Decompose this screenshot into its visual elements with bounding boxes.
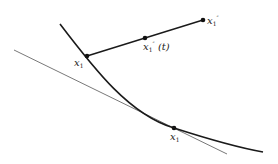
point-x1-dd-t xyxy=(143,36,148,41)
label-x1-hat-sub: 1 xyxy=(176,136,180,143)
optimization-diagram xyxy=(0,0,278,164)
label-x1-dd-t-arg: (t) xyxy=(158,41,170,52)
label-x1-double-prime-t: x1″ (t) xyxy=(143,41,170,53)
label-x1-dd-t-sub: 1 xyxy=(149,46,153,53)
label-x1-dd-sup: ″ xyxy=(216,14,218,21)
point-x1-dd xyxy=(201,18,206,23)
label-x1-sub: 1 xyxy=(80,62,84,69)
label-x1-dd-t-sup: ″ xyxy=(152,40,154,47)
point-x1 xyxy=(85,54,90,59)
label-x1-hat-accent: ^ xyxy=(171,127,177,134)
label-x1-dd-sub: 1 xyxy=(213,20,217,27)
label-x1: x1 xyxy=(74,58,83,69)
label-x1-double-prime: x1″ xyxy=(207,15,219,27)
label-x1-hat: ^x1 xyxy=(170,132,179,143)
tangent-line xyxy=(14,50,227,154)
